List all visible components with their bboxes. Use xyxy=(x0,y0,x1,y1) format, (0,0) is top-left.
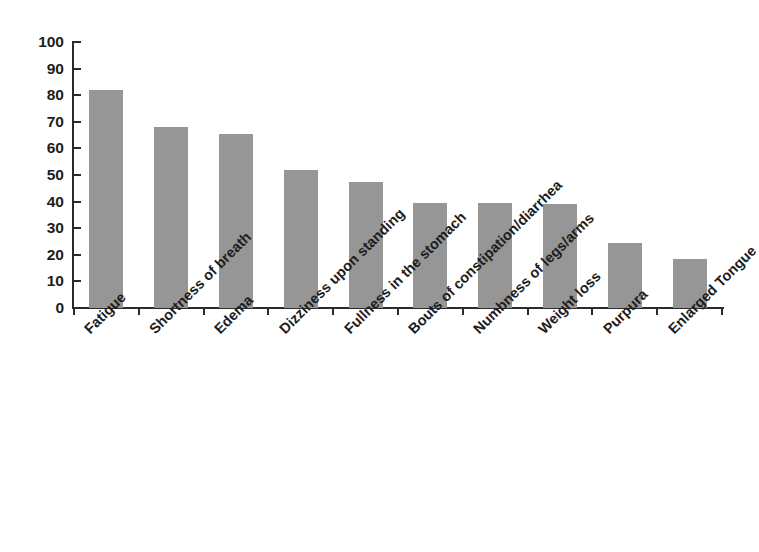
y-tick-label-text: 90 xyxy=(0,61,64,77)
y-tick-label-text: 10 xyxy=(0,273,64,289)
x-tick-mark xyxy=(397,309,399,315)
y-tick-label: 50 xyxy=(0,167,64,183)
y-tick-label: 80 xyxy=(0,87,64,103)
y-tick-label: 0 xyxy=(0,300,64,316)
y-tick-label-text: 50 xyxy=(0,167,64,183)
y-tick-label-text: 0 xyxy=(0,300,64,316)
y-tick-label: 40 xyxy=(0,194,64,210)
x-tick-mark xyxy=(527,309,529,315)
y-tick-label-text: 60 xyxy=(0,140,64,156)
y-tick-label: 10 xyxy=(0,273,64,289)
y-tick-label: 20 xyxy=(0,247,64,263)
x-tick-mark xyxy=(203,309,205,315)
x-tick-mark xyxy=(721,309,723,315)
x-tick-mark xyxy=(332,309,334,315)
y-tick-label-text: 30 xyxy=(0,220,64,236)
x-tick-mark xyxy=(656,309,658,315)
y-tick-label-text: 20 xyxy=(0,247,64,263)
x-tick-mark xyxy=(267,309,269,315)
y-tick-label: 70 xyxy=(0,114,64,130)
x-tick-mark xyxy=(462,309,464,315)
y-tick-label-text: 80 xyxy=(0,87,64,103)
y-tick-label: 100 xyxy=(0,34,64,50)
bar xyxy=(154,127,188,308)
bar xyxy=(219,134,253,308)
y-tick-label: 30 xyxy=(0,220,64,236)
y-tick-label: 60 xyxy=(0,140,64,156)
bar xyxy=(89,90,123,308)
y-tick-label-text: 70 xyxy=(0,114,64,130)
y-tick-label-text: 100 xyxy=(0,34,64,50)
x-tick-mark xyxy=(591,309,593,315)
y-tick-label: 90 xyxy=(0,61,64,77)
y-tick-label-text: 40 xyxy=(0,194,64,210)
x-tick-mark xyxy=(138,309,140,315)
x-tick-mark xyxy=(73,309,75,315)
